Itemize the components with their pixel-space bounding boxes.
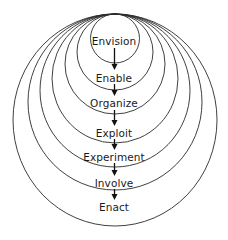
- arrow-icon: [112, 84, 118, 96]
- stage-label-exploit: Exploit: [0, 127, 228, 139]
- stage-label-envision: Envision: [0, 35, 228, 47]
- arrow-icon: [112, 163, 118, 176]
- stage-label-involve: Involve: [0, 177, 228, 189]
- arrow-icon: [112, 139, 118, 150]
- arrow-icon: [112, 48, 118, 70]
- arrow-icon: [112, 110, 118, 126]
- stage-label-experiment: Experiment: [0, 151, 228, 163]
- stage-label-enable: Enable: [0, 72, 228, 84]
- stage-label-enact: Enact: [0, 201, 228, 213]
- stage-label-organize: Organize: [0, 97, 228, 109]
- arrow-icon: [112, 189, 118, 200]
